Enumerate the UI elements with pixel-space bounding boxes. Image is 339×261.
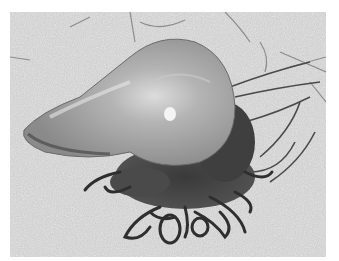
float-highlight <box>164 107 176 121</box>
photo-canvas <box>10 12 326 257</box>
photo <box>10 12 326 257</box>
